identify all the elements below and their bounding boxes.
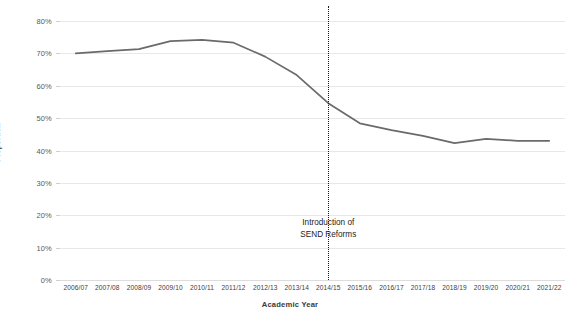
y-axis-tick-label: 10% (12, 243, 52, 252)
y-axis-tick-label: 50% (12, 114, 52, 123)
x-axis-tick-label: 2020/21 (505, 284, 530, 291)
x-axis-tick-label: 2008/09 (127, 284, 152, 291)
x-axis-tick-label: 2006/07 (64, 284, 89, 291)
x-axis-tick-label: 2021/22 (537, 284, 562, 291)
x-axis-tick-label: 2019/20 (474, 284, 499, 291)
x-axis-title: Academic Year (0, 300, 580, 309)
y-axis-tick-label: 70% (12, 49, 52, 58)
y-axis-tick-label: 40% (12, 146, 52, 155)
x-axis-tick-label: 2009/10 (158, 284, 183, 291)
y-axis-tick-label: 20% (12, 211, 52, 220)
annotation-line-2: SEND Reforms (300, 229, 356, 241)
y-axis-tick-label: 0% (12, 276, 52, 285)
y-tick-mark (56, 280, 60, 281)
y-axis-tick-label: 30% (12, 178, 52, 187)
y-axis-tick-label: 60% (12, 81, 52, 90)
line-chart: Proportion Introduction ofSEND Reforms 0… (0, 0, 580, 326)
x-axis-tick-label: 2010/11 (190, 284, 214, 291)
x-axis-tick-label: 2016/17 (379, 284, 404, 291)
plot-area: Introduction ofSEND Reforms (60, 21, 565, 280)
x-axis-tick-label: 2017/18 (411, 284, 436, 291)
x-axis-tick-label: 2018/19 (442, 284, 467, 291)
annotation-line-1: Introduction of (300, 217, 356, 229)
send-reforms-annotation-label: Introduction ofSEND Reforms (300, 217, 356, 241)
x-axis-tick-label: 2013/14 (284, 284, 309, 291)
x-axis-tick-label: 2014/15 (316, 284, 341, 291)
series-polyline (76, 40, 549, 143)
x-axis-tick-label: 2015/16 (348, 284, 373, 291)
series-line (60, 21, 565, 280)
y-axis-tick-label: 80% (12, 17, 52, 26)
x-axis-tick-label: 2011/12 (222, 284, 246, 291)
x-axis-tick-label: 2007/08 (95, 284, 120, 291)
gridline (60, 280, 565, 281)
y-axis-title: Proportion (0, 123, 2, 162)
x-axis-tick-label: 2012/13 (253, 284, 278, 291)
